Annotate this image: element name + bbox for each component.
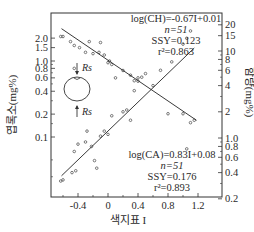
y-axis-left-label: 엽록소(mg%) xyxy=(6,74,19,135)
x-axis-label: 색지표 I xyxy=(110,214,147,226)
svg-text:4: 4 xyxy=(225,80,231,91)
svg-text:2.0: 2.0 xyxy=(35,33,48,44)
ca-n: n=51 xyxy=(161,160,184,171)
y-axis-right: 0.20.40.60.81.02468101520 xyxy=(218,19,239,204)
chart: -0.400.40.81.2 0.10.20.40.60.81.01.52.0 … xyxy=(0,0,254,232)
svg-text:0.2: 0.2 xyxy=(225,193,238,204)
svg-text:1.0: 1.0 xyxy=(35,56,48,67)
svg-text:6: 6 xyxy=(225,65,230,76)
svg-text:0.1: 0.1 xyxy=(35,132,48,143)
ca-r2: r²=0.893 xyxy=(154,182,190,193)
ca-ss: SSY=0.176 xyxy=(148,171,197,182)
svg-text:0.4: 0.4 xyxy=(35,86,49,97)
y-axis-right-label: 함량(mg%) xyxy=(243,67,254,118)
svg-text:0.6: 0.6 xyxy=(225,152,238,163)
ch-n: n=51 xyxy=(165,24,188,35)
svg-text:1.5: 1.5 xyxy=(35,42,48,53)
svg-text:-0.4: -0.4 xyxy=(70,200,87,211)
svg-text:1.0: 1.0 xyxy=(225,133,238,144)
svg-text:0: 0 xyxy=(105,200,110,211)
rs-label-top: Rs xyxy=(81,62,92,73)
svg-text:10: 10 xyxy=(225,46,236,57)
ch-ss: SSY=0.123 xyxy=(152,35,201,46)
x-axis: -0.400.40.81.2 xyxy=(63,193,205,211)
svg-text:15: 15 xyxy=(225,30,236,41)
svg-text:0.6: 0.6 xyxy=(35,72,48,83)
svg-text:0.2: 0.2 xyxy=(35,109,48,120)
svg-text:0.8: 0.8 xyxy=(161,200,174,211)
svg-text:2: 2 xyxy=(225,106,230,117)
rs-label-bottom: Rs xyxy=(81,106,92,117)
svg-text:0.4: 0.4 xyxy=(225,167,239,178)
svg-text:1.2: 1.2 xyxy=(191,200,204,211)
svg-text:0.4: 0.4 xyxy=(131,200,145,211)
y-axis-left: 0.10.20.40.60.81.01.52.0 xyxy=(35,33,55,177)
ch-r2: r²=0.863 xyxy=(158,46,194,57)
svg-text:20: 20 xyxy=(225,19,236,30)
